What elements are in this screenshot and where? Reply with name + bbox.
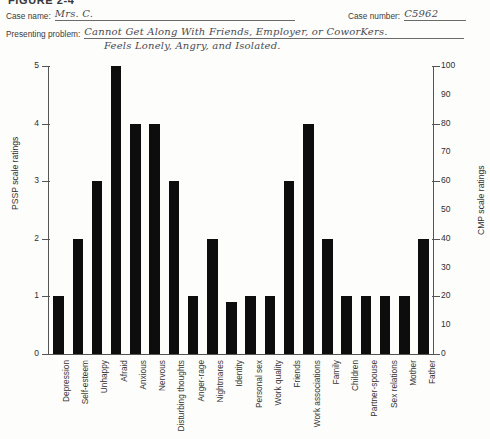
bar [73,239,84,354]
x-label-cell: Father [415,360,434,439]
y-tick-label-left: 3 [17,175,39,185]
bar-cell [87,66,106,354]
y-tick-right [432,124,440,125]
bar-cell [145,66,164,354]
bar [53,296,64,354]
bar-cell [126,66,145,354]
y-tick-label-right: 50 [441,204,467,214]
bar [188,296,199,354]
x-label-cell: Children [337,360,356,439]
bar-cell [375,66,394,354]
x-label-cell: Afraid [106,360,125,439]
bar-cell [299,66,318,354]
y-axis-left-title: PSSP scale ratings [10,137,20,210]
bar [130,124,141,354]
bar [361,296,372,354]
x-label-cell: Family [318,360,337,439]
bar [284,181,295,354]
bar-cell [260,66,279,354]
bar [169,181,180,354]
y-tick-label-right: 90 [441,89,467,99]
y-tick-label-right: 40 [441,233,467,243]
bar-cell [68,66,87,354]
y-tick-label-right: 0 [441,348,467,358]
figure-page: FIGURE 2-4 Case name: Mrs. C. Case numbe… [0,0,490,439]
y-tick-label-right: 30 [441,262,467,272]
x-axis-labels: DepressionSelf-esteemUnhappyAfraidAnxiou… [48,360,434,439]
bar [111,66,122,354]
bar-cell [203,66,222,354]
bar [303,124,314,354]
y-tick-right [432,239,440,240]
x-label-cell: Anger-rage [183,360,202,439]
x-label-cell: Nervous [144,360,163,439]
x-label-cell: Self-esteem [67,360,86,439]
bar-cell [337,66,356,354]
y-tick-right [432,66,440,67]
bar [245,296,256,354]
bar-cell [318,66,337,354]
plot-area: 012345 0102030405060708090100 [48,66,434,355]
bar-cell [279,66,298,354]
x-axis-tick-label: Father [427,360,437,384]
x-label-cell: Identity [222,360,241,439]
bar-cell [49,66,68,354]
y-tick-right [432,296,440,297]
bar-chart: PSSP scale ratings CMP scale ratings 012… [0,0,490,439]
y-tick-label-right: 80 [441,118,467,128]
bar-cell [241,66,260,354]
bar-cell [164,66,183,354]
y-tick-label-left: 2 [17,233,39,243]
x-label-cell: Work quality [260,360,279,439]
bar [399,296,410,354]
x-label-cell: Anxious [125,360,144,439]
y-axis-right-title: CMP scale ratings [476,165,486,235]
y-tick-label-left: 0 [17,348,39,358]
y-tick-label-right: 20 [441,290,467,300]
bar-cell [222,66,241,354]
bar-cell [395,66,414,354]
y-tick-label-left: 4 [17,118,39,128]
bar [418,239,429,354]
y-tick-left [42,296,50,297]
x-label-cell: Work associations [299,360,318,439]
bar [226,302,237,354]
bar [149,124,160,354]
y-tick-left [42,354,50,355]
x-label-cell: Personal sex [241,360,260,439]
y-tick-label-left: 1 [17,290,39,300]
bar [207,239,218,354]
bar [380,296,391,354]
y-tick-label-left: 5 [17,60,39,70]
bar-cell [107,66,126,354]
y-tick-left [42,66,50,67]
bar-cell [414,66,433,354]
y-tick-right [432,354,440,355]
bar-cell [183,66,202,354]
x-label-cell: Nightmares [202,360,221,439]
x-label-cell: Partner-spouse [357,360,376,439]
y-tick-left [42,124,50,125]
bar [92,181,103,354]
x-label-cell: Unhappy [87,360,106,439]
y-tick-label-right: 100 [441,60,467,70]
x-label-cell: Depression [48,360,67,439]
y-tick-label-right: 70 [441,146,467,156]
y-tick-label-right: 60 [441,175,467,185]
x-label-cell: Disturbing thoughts [164,360,183,439]
x-label-cell: Mother [395,360,414,439]
y-tick-right [432,181,440,182]
x-label-cell: Friends [280,360,299,439]
bar [265,296,276,354]
y-tick-label-right: 10 [441,319,467,329]
x-label-cell: Sex relations [376,360,395,439]
bar [341,296,352,354]
y-tick-left [42,239,50,240]
bar [322,239,333,354]
bar-series [49,66,433,354]
y-tick-left [42,181,50,182]
bar-cell [356,66,375,354]
